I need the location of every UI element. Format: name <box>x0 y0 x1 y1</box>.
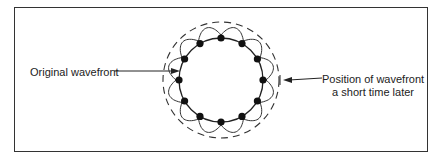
point-source-dot <box>181 55 188 62</box>
original-wavefront-label: Original wavefront <box>30 66 119 79</box>
later-wavefront-label: Position of wavefront a short time later <box>322 73 424 99</box>
wavelet-envelope <box>169 28 274 133</box>
later-wavefront-label-line1: Position of wavefront <box>322 73 424 86</box>
later-wavefront-arrow <box>280 75 322 85</box>
later-wavefront-label-line2: a short time later <box>322 86 424 99</box>
point-source-dot <box>238 40 245 47</box>
point-sources <box>175 34 266 125</box>
point-source-dot <box>196 113 203 120</box>
point-source-dot <box>254 55 261 62</box>
point-source-dot <box>181 97 188 104</box>
secondary-wavelets <box>169 28 274 133</box>
point-source-dot <box>254 97 261 104</box>
point-source-dot <box>238 113 245 120</box>
point-source-dot <box>217 118 224 125</box>
point-source-dot <box>196 40 203 47</box>
point-source-dot <box>175 76 182 83</box>
original-wavefront-circle <box>179 38 263 122</box>
point-source-dot <box>259 76 266 83</box>
point-source-dot <box>217 34 224 41</box>
